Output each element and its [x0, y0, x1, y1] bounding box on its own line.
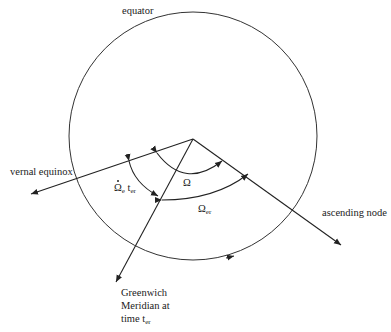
omega-symbol: Ω — [183, 177, 191, 188]
omega-er-symbol: Ω — [198, 203, 206, 214]
vernal-equinox-label: vernal equinox — [10, 165, 73, 178]
greenwich-label-line2: Meridian at — [121, 299, 170, 312]
omega-dot-subscript: e — [122, 187, 125, 195]
greenwich-meridian-ray — [116, 139, 193, 282]
omega-er-label: Ωer — [198, 202, 211, 219]
greenwich-meridian-label: Greenwich Meridian at time ter — [121, 286, 170, 329]
greenwich-time-prefix: time t — [121, 313, 145, 324]
omega-arc — [157, 153, 222, 174]
omega-label: Ω — [183, 176, 191, 189]
equator-label: equator — [122, 4, 154, 17]
greenwich-label-line3: time ter — [121, 312, 170, 329]
equator-circle — [69, 12, 317, 260]
omega-er-subscript: er — [206, 208, 211, 216]
diagram-canvas: equator vernal equinox ascending node Ω … — [0, 0, 391, 332]
ascending-node-label: ascending node — [322, 206, 387, 219]
omega-dot-symbol: Ω — [114, 181, 122, 194]
earth-rotation-label: Ωe ter — [114, 181, 136, 198]
greenwich-time-subscript: er — [145, 318, 150, 326]
omega-er-arc — [162, 174, 248, 200]
time-subscript: er — [130, 187, 135, 195]
equator-direction-arrow-icon — [226, 256, 234, 258]
greenwich-label-line1: Greenwich — [121, 286, 170, 299]
